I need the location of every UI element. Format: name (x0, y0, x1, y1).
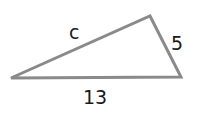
side-label-13: 13 (83, 86, 107, 108)
side-label-c: c (69, 21, 79, 43)
triangle-shape (11, 16, 181, 78)
side-label-5: 5 (171, 32, 183, 54)
triangle-diagram: c 5 13 (0, 0, 199, 116)
